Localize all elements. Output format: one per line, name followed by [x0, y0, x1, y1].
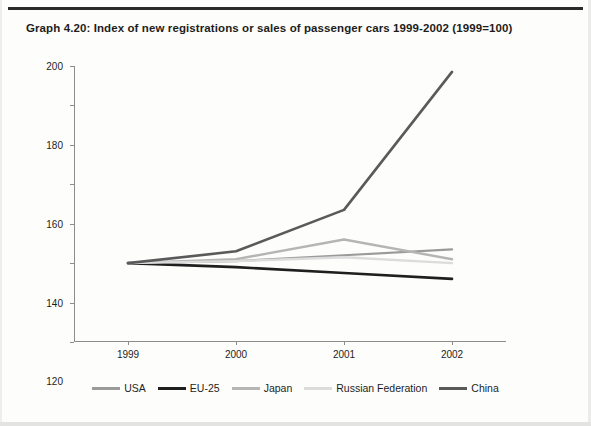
y-axis-tick-label: 140	[46, 297, 63, 308]
legend-item-eu-25[interactable]: EU-25	[158, 382, 220, 394]
legend-item-label: EU-25	[190, 382, 220, 394]
legend-swatch-icon	[439, 387, 467, 390]
legend-swatch-icon	[304, 387, 332, 390]
x-axis-tick-label: 1999	[117, 349, 139, 360]
x-axis-tick-label: 2002	[441, 349, 463, 360]
legend-item-japan[interactable]: Japan	[232, 382, 293, 394]
chart-legend: USAEU-25JapanRussian FederationChina	[0, 382, 591, 394]
legend-item-usa[interactable]: USA	[92, 382, 146, 394]
top-rule-divider	[8, 7, 583, 10]
legend-swatch-icon	[232, 387, 260, 390]
x-axis-tick-label: 2001	[333, 349, 355, 360]
legend-item-label: China	[471, 382, 498, 394]
series-lines	[74, 66, 506, 342]
legend-item-label: USA	[124, 382, 146, 394]
y-axis-tick-label: 180	[46, 139, 63, 150]
y-axis-tick-label: 160	[46, 218, 63, 229]
series-line-china	[128, 72, 452, 263]
x-axis-tick-label: 2000	[225, 349, 247, 360]
legend-item-label: Japan	[264, 382, 293, 394]
page-edge-bottom	[0, 422, 591, 426]
series-line-eu-25	[128, 263, 452, 279]
legend-item-label: Russian Federation	[336, 382, 427, 394]
legend-swatch-icon	[92, 387, 120, 390]
legend-item-china[interactable]: China	[439, 382, 498, 394]
legend-swatch-icon	[158, 387, 186, 390]
y-axis-tick: 60	[70, 342, 74, 343]
plot-area: 6080100120140160180200 1999200020012002	[74, 66, 506, 341]
legend-item-russian-federation[interactable]: Russian Federation	[304, 382, 427, 394]
chart-page: Graph 4.20: Index of new registrations o…	[0, 0, 591, 426]
chart-title: Graph 4.20: Index of new registrations o…	[26, 22, 512, 34]
y-axis-tick-label: 200	[46, 61, 63, 72]
page-edge-left	[0, 0, 2, 426]
